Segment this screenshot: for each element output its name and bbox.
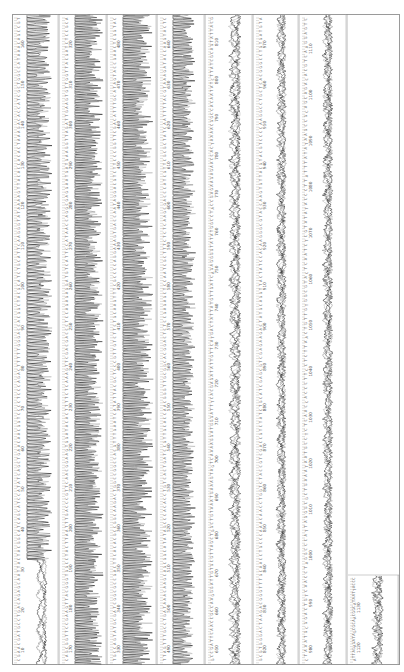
position-label: 80 xyxy=(20,365,25,371)
svg-text:T: T xyxy=(258,585,263,588)
svg-text:G: G xyxy=(64,198,69,201)
svg-text:G: G xyxy=(258,380,263,383)
svg-text:C: C xyxy=(258,396,263,399)
svg-text:T: T xyxy=(162,227,167,230)
svg-text:C: C xyxy=(112,118,117,121)
svg-text:A: A xyxy=(304,105,309,108)
position-label: 510 xyxy=(166,564,171,572)
svg-text:A: A xyxy=(258,279,263,282)
svg-text:C: C xyxy=(112,360,117,363)
svg-text:T: T xyxy=(112,174,117,177)
svg-text:C: C xyxy=(258,223,263,226)
svg-text:C: C xyxy=(64,223,69,226)
svg-text:G: G xyxy=(258,61,263,64)
position-label: 850 xyxy=(262,524,267,532)
svg-text:A: A xyxy=(112,307,117,310)
svg-text:C: C xyxy=(162,25,167,28)
position-label: 620 xyxy=(166,121,171,129)
position-label: 1090 xyxy=(308,135,313,146)
position-label: 1080 xyxy=(308,181,313,192)
svg-text:C: C xyxy=(64,29,69,32)
svg-text:A: A xyxy=(162,73,167,76)
position-label: 230 xyxy=(68,403,73,411)
svg-text:C: C xyxy=(64,57,69,60)
svg-text:A: A xyxy=(112,541,117,544)
svg-text:T: T xyxy=(210,427,215,430)
svg-text:T: T xyxy=(112,134,117,137)
svg-text:A: A xyxy=(210,446,215,449)
svg-text:A: A xyxy=(162,585,167,588)
svg-text:T: T xyxy=(210,89,215,92)
svg-text:A: A xyxy=(162,602,167,605)
svg-text:A: A xyxy=(64,17,69,20)
svg-text:T: T xyxy=(162,102,167,105)
svg-text:T: T xyxy=(304,488,309,491)
trace-strip-6: GCGTGGGACTAAGACGGGTTTGCAACCTGCCCAAACAACC… xyxy=(256,14,299,665)
svg-text:T: T xyxy=(16,614,21,617)
svg-text:G: G xyxy=(16,537,21,540)
svg-text:A: A xyxy=(16,295,21,298)
svg-text:G: G xyxy=(112,235,117,238)
position-label: 860 xyxy=(262,483,267,491)
trace-strip-5: GCCGATTCAACCGCCAAGGGATTGTGCGTTAGCTGGCTGT… xyxy=(208,14,253,665)
position-label: 590 xyxy=(166,242,171,250)
position-label: 1130 xyxy=(356,602,361,613)
svg-text:C: C xyxy=(304,575,309,578)
svg-text:T: T xyxy=(210,32,215,35)
svg-text:T: T xyxy=(112,440,117,443)
svg-text:G: G xyxy=(258,344,263,347)
svg-text:C: C xyxy=(64,344,69,347)
svg-text:T: T xyxy=(162,380,167,383)
svg-text:C: C xyxy=(112,384,117,387)
svg-text:A: A xyxy=(210,161,215,164)
svg-text:C: C xyxy=(112,65,117,68)
svg-text:T: T xyxy=(210,210,215,213)
svg-text:T: T xyxy=(258,622,263,625)
svg-text:A: A xyxy=(210,47,215,50)
svg-text:C: C xyxy=(16,388,21,391)
svg-text:A: A xyxy=(162,581,167,584)
position-label: 560 xyxy=(166,362,171,370)
svg-text:G: G xyxy=(210,17,215,20)
svg-text:A: A xyxy=(16,372,21,375)
position-label: 370 xyxy=(116,483,121,491)
svg-text:C: C xyxy=(162,416,167,419)
svg-text:T: T xyxy=(112,352,117,355)
svg-text:A: A xyxy=(162,198,167,201)
svg-text:G: G xyxy=(210,332,215,335)
svg-text:G: G xyxy=(16,420,21,423)
svg-text:A: A xyxy=(304,31,309,34)
trace-strip-4: TTAGTTTGCCTGATAAACAAGCAGCGGCATATAGCCCACA… xyxy=(160,14,205,665)
svg-text:C: C xyxy=(258,537,263,540)
svg-text:G: G xyxy=(304,87,309,90)
position-label: 1020 xyxy=(308,458,313,469)
svg-text:G: G xyxy=(16,90,21,93)
svg-text:G: G xyxy=(16,223,21,226)
svg-text:C: C xyxy=(112,170,117,173)
position-label: 90 xyxy=(20,325,25,331)
position-label: 720 xyxy=(214,379,219,387)
svg-text:C: C xyxy=(112,493,117,496)
svg-text:T: T xyxy=(162,235,167,238)
svg-text:G: G xyxy=(258,190,263,193)
svg-text:A: A xyxy=(64,178,69,181)
svg-text:G: G xyxy=(112,279,117,282)
position-label: 730 xyxy=(214,341,219,349)
svg-text:C: C xyxy=(162,497,167,500)
svg-text:G: G xyxy=(112,178,117,181)
svg-text:C: C xyxy=(304,386,309,389)
svg-text:A: A xyxy=(162,537,167,540)
svg-text:G: G xyxy=(258,37,263,40)
svg-text:G: G xyxy=(258,493,263,496)
svg-text:A: A xyxy=(210,430,215,433)
svg-text:C: C xyxy=(64,219,69,222)
svg-text:G: G xyxy=(304,299,309,302)
svg-text:T: T xyxy=(112,291,117,294)
svg-text:C: C xyxy=(258,73,263,76)
svg-text:G: G xyxy=(64,642,69,645)
svg-text:T: T xyxy=(64,134,69,137)
svg-text:T: T xyxy=(162,658,167,661)
svg-text:G: G xyxy=(210,55,215,58)
svg-text:A: A xyxy=(210,601,215,604)
svg-text:A: A xyxy=(304,534,309,537)
